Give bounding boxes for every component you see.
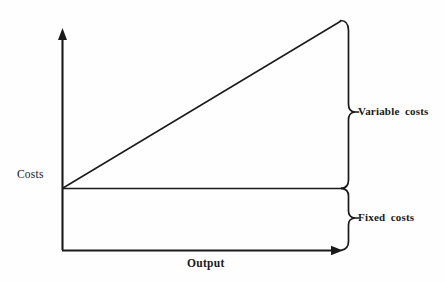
fixed-costs-label: Fixed costs: [358, 212, 414, 223]
figure-canvas: [0, 0, 445, 282]
fixed-costs-brace: [341, 188, 355, 250]
variable-costs-brace: [341, 21, 355, 189]
x-axis-label: Output: [187, 258, 225, 270]
cost-behaviour-figure: Costs Output Variable costs Fixed costs: [0, 0, 445, 282]
variable-costs-label: Variable costs: [358, 106, 429, 117]
total-cost-line: [63, 21, 341, 188]
y-axis-arrowhead: [58, 28, 67, 40]
y-axis-label: Costs: [17, 169, 44, 181]
